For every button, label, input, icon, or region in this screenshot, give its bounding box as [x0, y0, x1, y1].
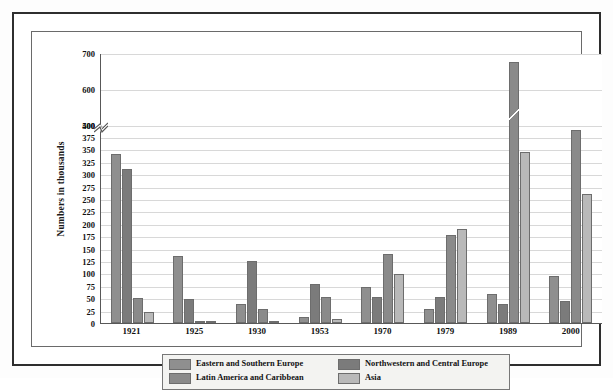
y-tick-label: 175	[82, 233, 95, 242]
bar-group	[477, 54, 540, 323]
legend-swatch-icon	[338, 359, 360, 370]
y-tick-label: 0	[91, 320, 95, 329]
x-tick-label: 1925	[163, 326, 226, 342]
y-tick-label: 375	[82, 134, 95, 143]
y-tick-label: 125	[82, 258, 95, 267]
bar	[582, 194, 592, 323]
bar-group	[101, 54, 164, 323]
bar	[258, 309, 268, 323]
bar	[394, 274, 404, 323]
y-tick-label: 100	[82, 270, 95, 279]
legend-item[interactable]: Latin America and Caribbean	[169, 373, 334, 384]
y-tick-label: 25	[87, 307, 96, 316]
axis-break-icon	[94, 120, 108, 133]
bar	[332, 319, 342, 323]
x-tick-label: 1970	[351, 326, 414, 342]
bar	[111, 154, 121, 323]
legend-label: Asia	[365, 374, 381, 382]
x-tick-label: 1930	[226, 326, 289, 342]
y-tick-label: 350	[82, 146, 95, 155]
x-tick-label: 2000	[539, 326, 602, 342]
y-tick-label: 250	[82, 196, 95, 205]
bar	[549, 276, 559, 323]
bar	[498, 304, 508, 323]
bar	[247, 261, 257, 323]
y-tick-label: 325	[82, 159, 95, 168]
y-axis-title: Numbers in thousands	[52, 54, 70, 324]
x-tick-label: 1989	[477, 326, 540, 342]
x-tick-label: 1979	[414, 326, 477, 342]
y-tick-label: 200	[82, 221, 95, 230]
y-tick-label: 300	[82, 171, 95, 180]
bar	[383, 254, 393, 323]
y-axis-title-text: Numbers in thousands	[56, 141, 66, 236]
outer-frame: Numbers in thousands 0255075100125150175…	[12, 12, 601, 366]
bar	[184, 299, 194, 323]
bar-groups	[101, 54, 602, 323]
plot-region	[100, 54, 602, 324]
legend-item[interactable]: Eastern and Southern Europe	[169, 359, 334, 370]
bar	[122, 169, 132, 323]
legend-label: Eastern and Southern Europe	[196, 360, 303, 368]
legend-item[interactable]: Northwestern and Central Europe	[338, 359, 503, 370]
bar	[236, 304, 246, 323]
bar-group	[352, 54, 415, 323]
bar	[457, 229, 467, 323]
legend-label: Latin America and Caribbean	[196, 374, 304, 382]
bar	[571, 130, 581, 323]
bar	[133, 298, 143, 323]
plot-wrapper: 0255075100125150175200225250275300325350…	[72, 54, 604, 339]
bar	[144, 312, 154, 323]
legend-label: Northwestern and Central Europe	[365, 360, 488, 368]
bar-group	[289, 54, 352, 323]
bar	[173, 256, 183, 323]
bar	[509, 62, 519, 323]
bar	[520, 152, 530, 323]
y-tick-label: 275	[82, 183, 95, 192]
y-tick-label: 50	[87, 295, 96, 304]
y-axis-ticks: 0255075100125150175200225250275300325350…	[72, 54, 98, 324]
bar	[310, 284, 320, 323]
y-tick-label: 600	[82, 86, 95, 95]
bar	[195, 321, 205, 323]
y-tick-label: 225	[82, 208, 95, 217]
bar	[435, 297, 445, 323]
x-tick-label: 1953	[288, 326, 351, 342]
y-tick-label: 75	[87, 283, 96, 292]
bar-group	[226, 54, 289, 323]
bar	[321, 297, 331, 323]
legend-swatch-icon	[169, 359, 191, 370]
bar	[424, 309, 434, 323]
bar-group	[164, 54, 227, 323]
chart-area: Numbers in thousands 0255075100125150175…	[54, 54, 559, 324]
bar	[372, 297, 382, 323]
legend-swatch-icon	[169, 373, 191, 384]
bar	[361, 287, 371, 323]
bar-group	[539, 54, 602, 323]
legend-swatch-icon	[338, 373, 360, 384]
bar	[269, 321, 279, 323]
bar	[206, 321, 216, 323]
bar-group	[414, 54, 477, 323]
x-tick-label: 1921	[100, 326, 163, 342]
legend-item[interactable]: Asia	[338, 373, 503, 384]
x-axis-labels: 19211925193019531970197919892000	[100, 326, 602, 342]
bar	[487, 294, 497, 323]
chart-legend: Eastern and Southern EuropeNorthwestern …	[162, 354, 510, 390]
y-tick-label: 700	[82, 50, 95, 59]
bar	[446, 235, 456, 323]
y-tick-label: 150	[82, 245, 95, 254]
bar	[299, 317, 309, 323]
bar	[560, 301, 570, 323]
inner-frame: Numbers in thousands 0255075100125150175…	[31, 31, 582, 347]
